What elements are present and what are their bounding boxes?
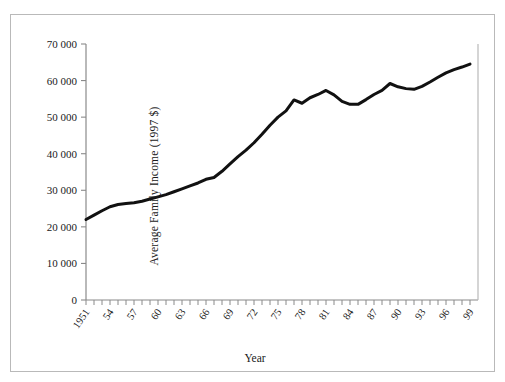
x-tick-label: 96 [437,307,452,322]
income-line-series [86,64,470,219]
x-tick-label: 63 [173,307,188,322]
line-chart-svg: 010 00020 00030 00040 00050 00060 00070 … [0,0,505,382]
x-tick-label: 99 [461,307,476,322]
x-tick-label: 72 [245,307,260,322]
y-tick-label: 40 000 [47,148,78,160]
x-tick-label: 81 [317,307,332,322]
y-tick-label: 70 000 [47,38,78,50]
x-tick-label: 57 [125,307,140,322]
y-tick-label: 10 000 [47,257,78,269]
x-tick-label: 75 [269,307,284,322]
plot-area: 010 00020 00030 00040 00050 00060 00070 … [0,0,505,382]
x-tick-label: 93 [413,307,428,322]
x-tick-label: 78 [293,307,308,322]
x-tick-label: 87 [365,307,380,322]
y-tick-label: 50 000 [47,111,78,123]
y-tick-label: 0 [72,294,78,306]
x-tick-label: 54 [101,306,116,322]
x-tick-label: 60 [149,307,164,322]
x-tick-label: 1951 [71,307,92,331]
x-axis-title: Year [180,352,330,364]
y-axis-title: Average Family Income (1997 $) [148,66,160,306]
y-tick-label: 30 000 [47,184,78,196]
y-tick-label: 20 000 [47,221,78,233]
x-tick-label: 90 [389,307,404,322]
x-tick-label: 84 [341,306,356,322]
x-tick-label: 66 [197,307,212,322]
chart-figure: 010 00020 00030 00040 00050 00060 00070 … [0,0,505,382]
x-tick-label: 69 [221,307,236,322]
y-tick-label: 60 000 [47,75,78,87]
